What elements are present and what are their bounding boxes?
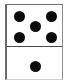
- pip-center: [30, 61, 41, 72]
- pip-top-left: [14, 11, 25, 22]
- pip-top-right: [46, 11, 57, 22]
- domino-half-bottom: [7, 47, 62, 80]
- domino-half-top: [7, 5, 62, 46]
- domino-canvas: [0, 0, 73, 83]
- pip-center: [30, 21, 41, 32]
- pip-bottom-left: [14, 32, 25, 43]
- domino-tile[interactable]: [5, 4, 63, 80]
- pip-bottom-right: [46, 32, 57, 43]
